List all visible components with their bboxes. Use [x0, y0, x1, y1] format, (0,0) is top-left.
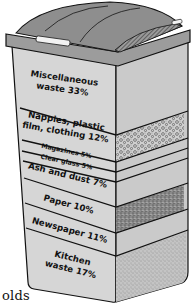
caption-fragment: olds — [2, 288, 30, 303]
waste-bin-diagram: Miscellaneous waste 33% Nappies, plastic… — [0, 0, 193, 303]
